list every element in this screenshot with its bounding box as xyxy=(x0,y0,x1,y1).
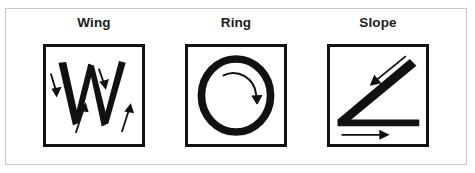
down-right-arrow xyxy=(99,69,108,88)
panel-box-slope xyxy=(327,44,429,147)
slope-stroke-1 xyxy=(338,59,417,125)
figure-frame: Wing xyxy=(5,8,467,165)
panel-slope: Slope xyxy=(317,15,439,147)
slope-stroke-diagram xyxy=(330,47,426,144)
down-left-arrow xyxy=(51,73,60,95)
clockwise-curved-arrow xyxy=(224,73,262,104)
panel-label-wing: Wing xyxy=(77,15,110,32)
panel-label-slope: Slope xyxy=(359,15,396,32)
panel-box-ring xyxy=(185,44,287,147)
panel-label-ring: Ring xyxy=(221,15,251,32)
ring-stroke-diagram xyxy=(188,47,284,144)
panel-box-wing xyxy=(43,44,145,147)
panels-row: Wing xyxy=(6,9,466,164)
wing-stroke-diagram xyxy=(46,47,142,144)
panel-ring: Ring xyxy=(175,15,297,147)
slope-stroke-2 xyxy=(338,120,420,127)
panel-wing: Wing xyxy=(33,15,155,147)
w-stroke-4 xyxy=(102,61,126,126)
up-right-arrow xyxy=(122,105,133,132)
right-arrow xyxy=(342,131,388,138)
